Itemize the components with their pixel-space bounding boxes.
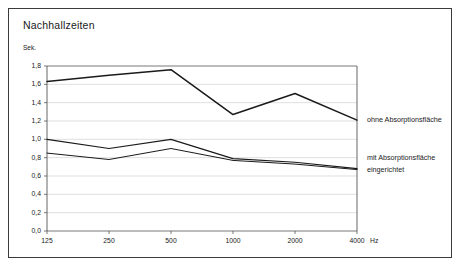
legend-label-eingerichtet: eingerichtet bbox=[367, 164, 404, 176]
chart-figure: Nachhallzeiten Sek. 0,00,20,40,60,81,01,… bbox=[8, 8, 452, 258]
x-tick-marks bbox=[47, 231, 357, 234]
x-axis-unit-label: Hz bbox=[370, 237, 378, 244]
legend-label-mit: mit Absorptionsfläche bbox=[367, 152, 435, 164]
y-tick-label: 0,2 bbox=[19, 209, 41, 216]
x-tick-label: 500 bbox=[151, 237, 191, 244]
legend-label-ohne: ohne Absorptionsfläche bbox=[367, 114, 442, 126]
y-tick-label: 1,6 bbox=[19, 80, 41, 87]
y-tick-label: 0,6 bbox=[19, 172, 41, 179]
y-tick-label: 0,0 bbox=[19, 227, 41, 234]
y-tick-label: 1,4 bbox=[19, 99, 41, 106]
y-tick-label: 1,0 bbox=[19, 135, 41, 142]
series-line-1 bbox=[47, 70, 357, 120]
y-tick-label: 0,4 bbox=[19, 190, 41, 197]
y-tick-label: 1,2 bbox=[19, 117, 41, 124]
x-tick-label: 1000 bbox=[213, 237, 253, 244]
x-tick-label: 125 bbox=[27, 237, 67, 244]
chart-canvas bbox=[9, 9, 453, 259]
series-line-3 bbox=[47, 149, 357, 170]
data-series-group bbox=[47, 70, 357, 170]
x-tick-label: 250 bbox=[89, 237, 129, 244]
plot-area: 0,00,20,40,60,81,01,21,41,61,8 125250500… bbox=[9, 9, 453, 259]
y-tick-label: 1,8 bbox=[19, 62, 41, 69]
x-tick-label: 2000 bbox=[275, 237, 315, 244]
y-tick-label: 0,8 bbox=[19, 154, 41, 161]
